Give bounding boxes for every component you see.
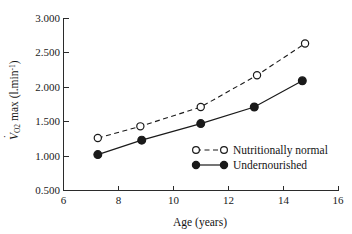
y-axis-units-main: max (l.min bbox=[8, 70, 20, 120]
y-axis-tick-labels: 0.500 1.000 1.500 2.000 2.500 3.000 bbox=[35, 12, 60, 197]
chart-legend: Nutritionally normal Undernourished bbox=[192, 144, 327, 171]
legend-item-nutritionally-normal: Nutritionally normal bbox=[193, 144, 328, 157]
y-tick-label: 2.500 bbox=[35, 46, 60, 58]
y-tick-label: 1.000 bbox=[35, 150, 60, 162]
y-axis-title: VO2 max (l.min-1) bbox=[4, 0, 26, 200]
data-point bbox=[94, 134, 101, 141]
y-axis-ticks bbox=[64, 18, 69, 191]
data-point bbox=[94, 151, 102, 159]
x-tick-label: 16 bbox=[333, 194, 345, 206]
x-tick-label: 8 bbox=[116, 194, 122, 206]
data-point bbox=[138, 136, 146, 144]
legend-marker-filled-circle bbox=[220, 161, 227, 168]
legend-marker-filled-circle bbox=[192, 161, 199, 168]
y-tick-label: 1.500 bbox=[35, 115, 60, 127]
y-axis-sub-o: O bbox=[13, 127, 22, 132]
y-axis-paren-close: ) bbox=[8, 60, 20, 64]
data-point bbox=[197, 103, 204, 110]
legend-label-undernourished: Undernourished bbox=[233, 159, 307, 171]
chart-figure: 0.500 1.000 1.500 2.000 2.500 3.000 6 8 … bbox=[0, 0, 352, 234]
data-point bbox=[301, 40, 308, 47]
v-dot-symbol: V bbox=[8, 133, 20, 140]
y-tick-label: 3.000 bbox=[35, 12, 60, 24]
data-point bbox=[197, 120, 205, 128]
data-point bbox=[298, 77, 306, 85]
y-tick-label: 2.000 bbox=[35, 81, 60, 93]
x-axis-tick-labels: 6 8 10 12 14 16 bbox=[61, 194, 344, 206]
legend-marker-open-circle bbox=[221, 147, 228, 154]
data-point bbox=[137, 123, 144, 130]
legend-item-undernourished: Undernourished bbox=[192, 159, 307, 171]
y-tick-label: 0.500 bbox=[35, 184, 60, 196]
y-axis-sup-exp: -1 bbox=[8, 64, 17, 70]
x-tick-label: 10 bbox=[168, 194, 180, 206]
chart-plot-area: 0.500 1.000 1.500 2.000 2.500 3.000 6 8 … bbox=[0, 0, 352, 234]
x-axis-ticks bbox=[64, 186, 339, 191]
data-point bbox=[250, 103, 258, 111]
legend-marker-open-circle bbox=[193, 147, 200, 154]
x-tick-label: 6 bbox=[61, 194, 67, 206]
x-tick-label: 12 bbox=[223, 194, 234, 206]
data-point bbox=[253, 72, 260, 79]
x-axis-title: Age (years) bbox=[173, 216, 227, 229]
legend-label-nutritionally-normal: Nutritionally normal bbox=[233, 144, 328, 157]
y-axis-sub-two: 2 bbox=[13, 124, 22, 128]
y-axis-title-text: VO2 max (l.min-1) bbox=[9, 60, 22, 140]
x-tick-label: 14 bbox=[278, 194, 290, 206]
